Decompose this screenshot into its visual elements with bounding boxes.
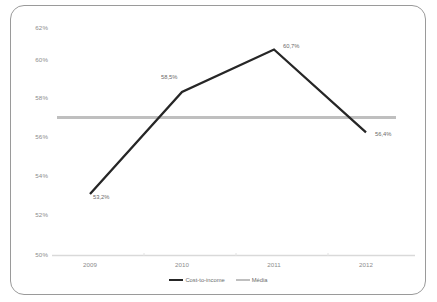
x-axis-label-2010: 2010 [152, 261, 212, 268]
data-label-2009: 53,2% [93, 194, 109, 200]
legend-item-cost-to-income[interactable]: Cost-to-income [169, 277, 224, 283]
chart-plot-area: 62% 60% 58% 56% 54% 52% 50% 53,2% 58,5% … [0, 0, 437, 302]
chart-legend: Cost-to-income Média [0, 277, 437, 283]
legend-label-cost-to-income: Cost-to-income [185, 277, 224, 283]
legend-item-media[interactable]: Média [236, 277, 268, 283]
data-label-2012: 56,4% [375, 131, 391, 137]
legend-swatch-icon [169, 279, 183, 281]
x-axis-label-2011: 2011 [244, 261, 304, 268]
legend-label-media: Média [252, 277, 268, 283]
data-label-2011: 60,7% [283, 43, 299, 49]
x-axis-label-2009: 2009 [60, 261, 120, 268]
legend-swatch-icon [236, 279, 250, 282]
x-axis-label-2012: 2012 [336, 261, 396, 268]
chart-canvas [0, 0, 437, 302]
series-line-cost-to-income [90, 50, 366, 194]
data-label-2010: 58,5% [161, 74, 177, 80]
